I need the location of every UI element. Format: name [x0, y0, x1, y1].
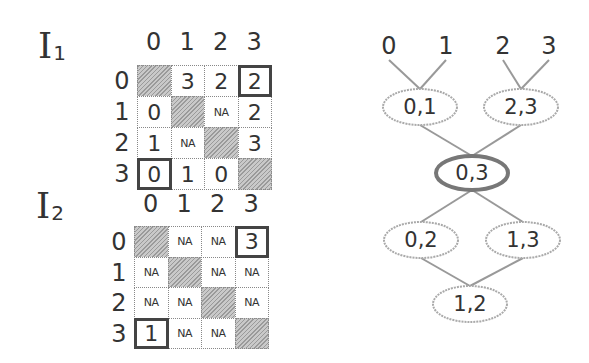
- tree-edge: [420, 60, 446, 89]
- tree-edge: [421, 190, 472, 222]
- highlighted-cell: 3: [235, 226, 270, 258]
- tree-leaf-label: 1: [438, 32, 453, 60]
- highlighted-cell: 1: [134, 318, 169, 350]
- tree-edge: [503, 60, 521, 89]
- highlighted-cell: 2: [238, 65, 273, 97]
- tree-node-label: 2,3: [504, 95, 537, 119]
- tree-edge: [389, 60, 420, 89]
- tree-edge: [421, 258, 470, 286]
- tree-node-label: 0,1: [403, 95, 436, 119]
- tree-edge: [420, 125, 472, 156]
- tree-node-label: 0,3: [455, 161, 488, 185]
- tree-leaf-label: 3: [541, 32, 556, 60]
- tree-edge: [470, 258, 523, 286]
- tree-node-label: 0,2: [404, 228, 437, 252]
- tree-edge: [472, 125, 521, 156]
- tree-node-label: 1,3: [506, 228, 539, 252]
- tree-leaf-label: 0: [381, 32, 396, 60]
- tree-leaf-label: 2: [495, 32, 510, 60]
- tree-edge: [472, 190, 523, 222]
- tree-node-label: 1,2: [453, 292, 486, 316]
- tree-edge: [521, 60, 549, 89]
- highlighted-cell: 0: [137, 158, 172, 190]
